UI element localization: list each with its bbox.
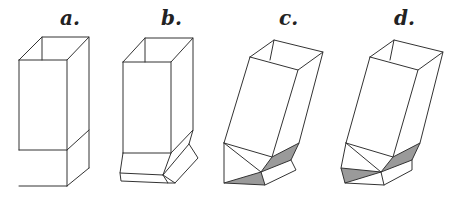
shaded-flap-right bbox=[381, 143, 420, 172]
panel-a-box bbox=[19, 37, 89, 186]
panel-c-label: c. bbox=[279, 6, 298, 30]
panel-a: a. bbox=[19, 6, 89, 186]
panel-a-label: a. bbox=[60, 6, 80, 30]
panel-b: b. bbox=[120, 6, 198, 183]
panel-b-label: b. bbox=[161, 6, 182, 30]
panel-d-box bbox=[341, 40, 443, 185]
folded-box-diagram: a. b. c. bbox=[0, 0, 459, 200]
panel-c: c. bbox=[224, 6, 323, 185]
panel-d-label: d. bbox=[394, 6, 415, 30]
shaded-flap-bottom bbox=[224, 172, 265, 185]
shaded-flap-right bbox=[261, 143, 299, 172]
panel-b-box bbox=[120, 38, 198, 183]
panel-c-box bbox=[224, 40, 323, 185]
shaded-flap-left bbox=[341, 168, 381, 183]
panel-d: d. bbox=[341, 6, 443, 185]
